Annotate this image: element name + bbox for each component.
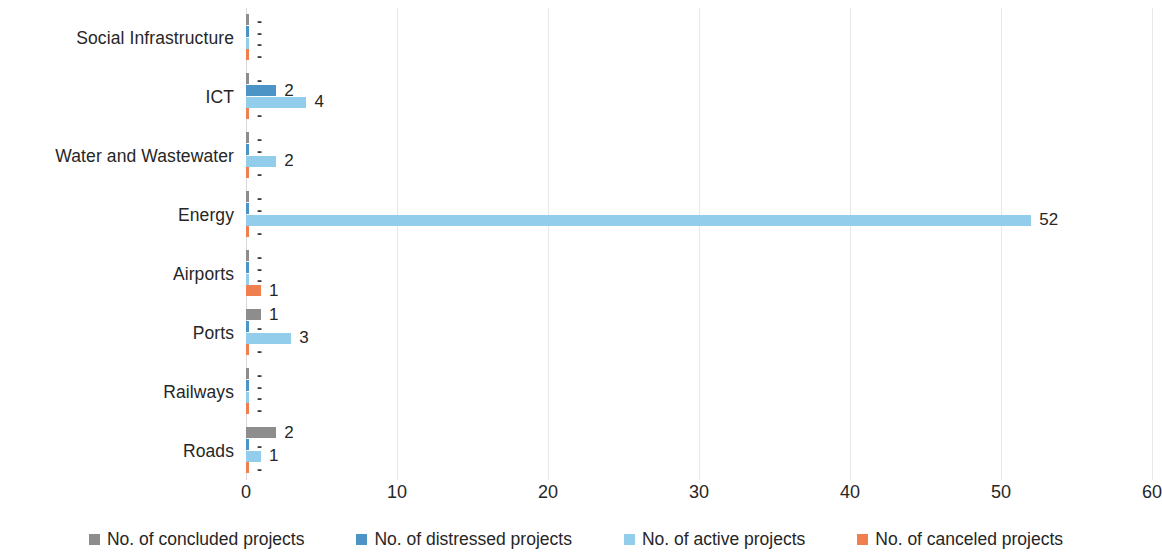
bar[interactable] (246, 167, 249, 178)
x-axis-tick: 40 (840, 482, 860, 503)
bar[interactable] (246, 132, 249, 143)
bar-value-label: - (257, 224, 262, 241)
x-axis-tick: 50 (991, 482, 1011, 503)
category-row: Railways---- (246, 362, 1152, 421)
category-row: Energy--52- (246, 185, 1152, 244)
bar-value-label: - (257, 401, 262, 418)
x-axis-tick: 10 (387, 482, 407, 503)
bar-value-label: - (257, 460, 262, 477)
chart-legend: No. of concluded projectsNo. of distress… (0, 524, 1152, 554)
legend-item[interactable]: No. of distressed projects (356, 529, 571, 550)
category-label: Roads (183, 440, 234, 461)
category-label: Ports (193, 322, 234, 343)
legend-item[interactable]: No. of active projects (624, 529, 805, 550)
bar[interactable] (246, 368, 249, 379)
bar-group: ---- (246, 8, 1152, 67)
bar[interactable] (246, 73, 249, 84)
gridline (1152, 8, 1153, 480)
legend-label: No. of active projects (642, 529, 805, 550)
bar[interactable] (246, 321, 249, 332)
category-label: Railways (163, 381, 234, 402)
bar-group: 2-1- (246, 421, 1152, 480)
legend-swatch-icon (356, 534, 367, 545)
legend-swatch-icon (857, 534, 868, 545)
category-row: Ports1-3- (246, 303, 1152, 362)
category-row: Airports---1 (246, 244, 1152, 303)
x-axis-tick: 20 (538, 482, 558, 503)
bar[interactable] (246, 262, 249, 273)
bar[interactable] (246, 462, 249, 473)
category-row: Water and Wastewater--2- (246, 126, 1152, 185)
bar[interactable] (246, 108, 249, 119)
bar-group: --52- (246, 185, 1152, 244)
bar[interactable] (246, 203, 249, 214)
category-label: Airports (173, 263, 234, 284)
bar[interactable] (246, 380, 249, 391)
bar[interactable] (246, 26, 249, 37)
bar-group: 1-3- (246, 303, 1152, 362)
bar[interactable] (246, 392, 249, 403)
bar[interactable] (246, 215, 1031, 226)
legend-label: No. of canceled projects (875, 529, 1063, 550)
bar-value-label: - (257, 106, 262, 123)
x-axis-tick: 0 (241, 482, 251, 503)
bar-group: ---- (246, 362, 1152, 421)
bar[interactable] (246, 285, 261, 296)
bar-value-label: 1 (269, 305, 278, 325)
x-axis-tick: 60 (1142, 482, 1162, 503)
bar-value-label: - (257, 47, 262, 64)
bar-value-label: - (257, 342, 262, 359)
plot-area: Social Infrastructure----ICT-24-Water an… (246, 8, 1152, 480)
legend-label: No. of concluded projects (107, 529, 304, 550)
category-row: Social Infrastructure---- (246, 8, 1152, 67)
bar-group: -24- (246, 67, 1152, 126)
bar[interactable] (246, 226, 249, 237)
legend-swatch-icon (89, 534, 100, 545)
category-label: Water and Wastewater (55, 145, 234, 166)
bar-value-label: 4 (314, 92, 323, 112)
bar-value-label: 52 (1039, 210, 1058, 230)
legend-label: No. of distressed projects (374, 529, 571, 550)
bar[interactable] (246, 274, 249, 285)
bar-value-label: 1 (269, 281, 278, 301)
bar[interactable] (246, 191, 249, 202)
bar[interactable] (246, 144, 249, 155)
bar[interactable] (246, 97, 306, 108)
bar-group: --2- (246, 126, 1152, 185)
x-axis-tick: 30 (689, 482, 709, 503)
x-axis-tick-labels: 0102030405060 (246, 482, 1152, 512)
bar-group: ---1 (246, 244, 1152, 303)
category-label: ICT (206, 86, 235, 107)
bar[interactable] (246, 344, 249, 355)
bar-value-label: 3 (299, 328, 308, 348)
bar-value-label: 2 (284, 423, 293, 443)
bar[interactable] (246, 85, 276, 96)
bar[interactable] (246, 49, 249, 60)
legend-swatch-icon (624, 534, 635, 545)
category-label: Social Infrastructure (76, 27, 234, 48)
bar[interactable] (246, 250, 249, 261)
category-row: Roads2-1- (246, 421, 1152, 480)
bar[interactable] (246, 333, 291, 344)
bar[interactable] (246, 14, 249, 25)
bar-value-label: - (257, 165, 262, 182)
bar[interactable] (246, 439, 249, 450)
bar[interactable] (246, 403, 249, 414)
bar-value-label: 1 (269, 446, 278, 466)
legend-item[interactable]: No. of concluded projects (89, 529, 304, 550)
bar-value-label: 2 (284, 151, 293, 171)
legend-item[interactable]: No. of canceled projects (857, 529, 1063, 550)
category-row: ICT-24- (246, 67, 1152, 126)
bar[interactable] (246, 38, 249, 49)
category-label: Energy (178, 204, 234, 225)
